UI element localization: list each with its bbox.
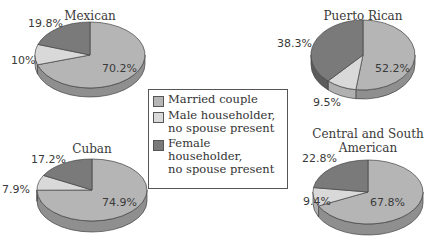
title-mexican: Mexican	[64, 9, 116, 23]
legend-label: Female householder, no spouse present	[168, 137, 283, 176]
legend-item-male: Male householder, no spouse present	[153, 109, 283, 135]
label-cuban-female: 17.2%	[31, 153, 66, 166]
label-mexican-male: 10%	[11, 54, 35, 67]
label-mexican-married: 70.2%	[102, 62, 137, 75]
swatch-male	[153, 112, 164, 123]
label-mexican-female: 19.8%	[28, 17, 63, 30]
legend-item-female: Female householder, no spouse present	[153, 137, 283, 176]
label-csa-married: 67.8%	[370, 196, 405, 209]
legend-label: Married couple	[168, 93, 258, 106]
legend-item-married: Married couple	[153, 93, 283, 107]
title-puerto-rican: Puerto Rican	[324, 9, 403, 23]
label-pr-married: 52.2%	[375, 62, 410, 75]
title-csa-line2: American	[338, 141, 398, 155]
legend-label: Male householder, no spouse present	[168, 109, 275, 135]
label-pr-male: 9.5%	[313, 96, 341, 109]
label-cuban-married: 74.9%	[102, 196, 137, 209]
swatch-female	[153, 140, 164, 151]
label-csa-male: 9.4%	[303, 195, 331, 208]
label-csa-female: 22.8%	[302, 152, 337, 165]
title-csa-line1: Central and South	[312, 127, 424, 141]
title-cuban: Cuban	[72, 142, 112, 156]
legend: Married couple Male householder, no spou…	[148, 89, 288, 189]
swatch-married	[153, 96, 164, 107]
label-cuban-male: 7.9%	[2, 183, 30, 196]
label-pr-female: 38.3%	[277, 37, 312, 50]
